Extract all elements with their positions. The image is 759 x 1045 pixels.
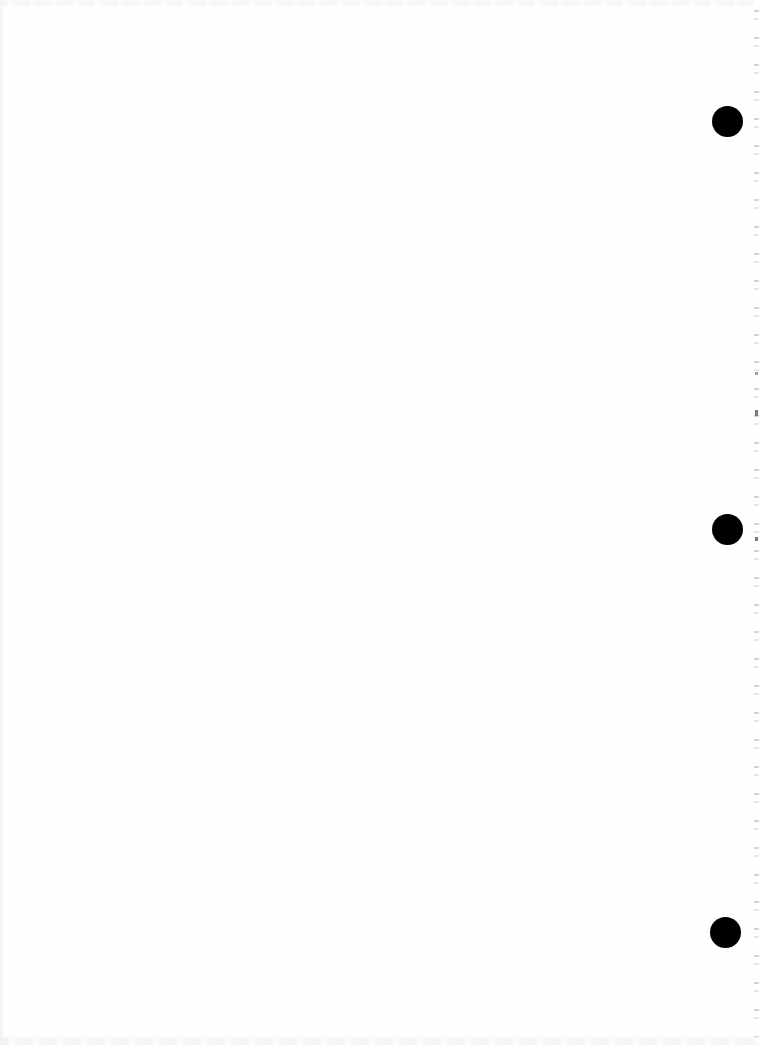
hole-punch-bottom bbox=[710, 917, 741, 948]
binding-mark bbox=[755, 372, 758, 375]
scan-noise-top bbox=[0, 0, 759, 6]
binding-mark bbox=[755, 410, 758, 416]
hole-punch-top bbox=[712, 106, 743, 137]
page-left-edge bbox=[0, 0, 3, 1045]
binding-edge bbox=[754, 0, 759, 1045]
scan-noise-bottom bbox=[0, 1037, 759, 1045]
binding-mark bbox=[755, 537, 758, 541]
scanned-page bbox=[0, 0, 759, 1045]
hole-punch-middle bbox=[712, 514, 743, 545]
